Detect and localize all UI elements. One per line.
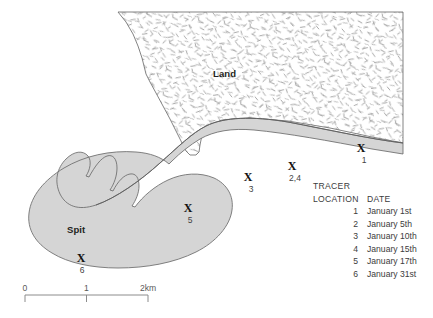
scale-tick-label-1: 1 bbox=[84, 283, 89, 293]
tracer-marker-3[interactable]: X bbox=[244, 170, 253, 185]
legend-row: 2 January 5th bbox=[313, 218, 433, 231]
tracer-marker-1-label: 1 bbox=[362, 155, 367, 165]
legend-location: 5 bbox=[313, 255, 367, 268]
tracer-marker-2-4[interactable]: X bbox=[288, 159, 297, 174]
tracer-marker-2-4-label: 2,4 bbox=[289, 173, 301, 183]
legend-location: 3 bbox=[313, 230, 367, 243]
legend-date: January 10th bbox=[367, 230, 417, 243]
coastal-spit-map-figure: Land Spit X 1 X 2,4 X 3 X 5 X 6 TRACER L… bbox=[0, 0, 433, 318]
legend-date: January 5th bbox=[367, 218, 412, 231]
legend-row: 4 January 15th bbox=[313, 243, 433, 256]
land-label: Land bbox=[213, 68, 236, 79]
tracer-marker-5[interactable]: X bbox=[184, 201, 193, 216]
legend-row: 3 January 10th bbox=[313, 230, 433, 243]
legend-location: 2 bbox=[313, 218, 367, 231]
legend-date: January 17th bbox=[367, 255, 417, 268]
scale-bar: 0 1 2km bbox=[22, 283, 154, 311]
land-region bbox=[118, 12, 403, 155]
legend-title: TRACER bbox=[313, 180, 433, 193]
legend-date: January 15th bbox=[367, 243, 417, 256]
legend-location: 6 bbox=[313, 268, 367, 281]
legend-row: 1 January 1st bbox=[313, 205, 433, 218]
scale-tick-label-2km: 2km bbox=[140, 283, 156, 293]
legend-row: 6 January 31st bbox=[313, 268, 433, 281]
legend-date: January 31st bbox=[367, 268, 416, 281]
legend-header-date: DATE bbox=[367, 193, 390, 206]
legend-location: 4 bbox=[313, 243, 367, 256]
tracer-marker-6-label: 6 bbox=[80, 265, 85, 275]
scale-tick-label-0: 0 bbox=[23, 283, 28, 293]
tracer-marker-6[interactable]: X bbox=[77, 251, 86, 266]
tracer-legend: TRACER LOCATION DATE 1 January 1st 2 Jan… bbox=[313, 180, 433, 281]
legend-header-row: LOCATION DATE bbox=[313, 193, 433, 206]
spit-label: Spit bbox=[67, 224, 85, 235]
legend-header-location: LOCATION bbox=[313, 193, 367, 206]
legend-date: January 1st bbox=[367, 205, 411, 218]
tracer-marker-1[interactable]: X bbox=[357, 141, 366, 156]
legend-row: 5 January 17th bbox=[313, 255, 433, 268]
legend-location: 1 bbox=[313, 205, 367, 218]
tracer-marker-3-label: 3 bbox=[249, 184, 254, 194]
tracer-marker-5-label: 5 bbox=[188, 215, 193, 225]
